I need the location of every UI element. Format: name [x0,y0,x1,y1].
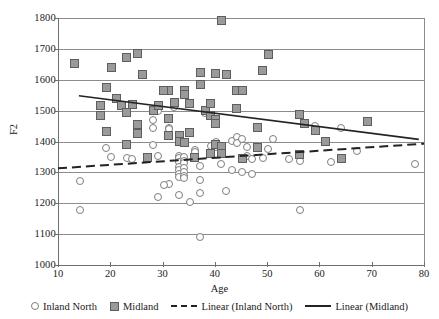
legend-item: Midland [110,301,159,312]
x-axis-tick-label: 30 [148,268,178,279]
data-point [138,70,147,79]
data-point [337,124,345,132]
data-point [206,99,215,108]
data-point [76,177,84,185]
data-point [128,100,137,109]
data-point [160,181,168,189]
y-axis-tick-label: 1600 [4,75,56,85]
x-axis-tick-label: 80 [409,268,439,279]
data-point [238,168,246,176]
data-point [180,138,189,147]
data-point [295,150,304,159]
data-point [76,206,84,214]
x-axis-tick-label: 40 [200,268,230,279]
data-point [149,116,157,124]
data-point [159,86,168,95]
data-point [243,143,251,151]
data-point [285,155,293,163]
data-point [311,126,320,135]
legend-item: Inland North [31,301,97,312]
x-axis-tick [267,262,268,267]
data-point [70,59,79,68]
x-axis-tick [319,262,320,267]
y-axis-tick-labels: 100011001200130014001500160017001800 [0,0,56,280]
data-point [228,166,236,174]
x-axis-tick-label: 10 [43,268,73,279]
data-point [337,154,346,163]
scatter-chart: 100011001200130014001500160017001800 102… [0,0,439,319]
x-axis-tick [215,262,216,267]
dashed-line-icon [171,305,197,307]
x-axis-tick [58,262,59,267]
data-point [185,128,194,137]
square-marker-icon [110,302,119,311]
data-point [295,110,304,119]
y-axis-tick [54,203,59,204]
y-axis-tick-label: 1100 [4,229,56,239]
gridline-y [58,18,424,19]
data-point [206,149,215,158]
data-point [296,206,304,214]
data-point [217,16,226,25]
data-point [185,99,194,108]
data-point [102,144,110,152]
data-point [264,145,272,153]
data-point [211,69,220,78]
data-point [180,90,189,99]
y-axis-tick-label: 1300 [4,167,56,177]
y-axis-tick [54,80,59,81]
chart-legend: Inland NorthMidlandLinear (Inland North)… [0,297,439,315]
data-point [122,108,131,117]
data-point [107,153,115,161]
data-point [238,135,246,143]
data-point [238,154,247,163]
data-point [327,158,335,166]
x-axis-tick-label: 50 [252,268,282,279]
data-point [222,187,230,195]
data-point [196,162,204,170]
data-point [238,86,247,95]
x-axis-tick [372,262,373,267]
circle-marker-icon [31,302,39,310]
y-axis-tick-label: 1400 [4,137,56,147]
y-axis-tick [54,142,59,143]
x-axis-tick-label: 60 [304,268,334,279]
legend-item: Linear (Midland) [305,301,408,312]
y-axis-tick [54,111,59,112]
solid-line-icon [305,305,331,307]
data-point [122,53,131,62]
y-axis-tick [54,18,59,19]
x-axis-tick [424,262,425,267]
data-point [175,191,183,199]
data-point [300,119,309,128]
gridline-y [58,234,424,235]
data-point [154,152,162,160]
data-point [196,68,205,77]
plot-area [58,18,424,265]
data-point [259,154,267,162]
data-point [133,49,142,58]
legend-item-label: Linear (Inland North) [201,301,292,312]
y-axis-tick-label: 1700 [4,44,56,54]
data-point [180,174,188,182]
data-point [196,189,204,197]
legend-item-label: Linear (Midland) [335,301,408,312]
data-point [133,120,142,129]
y-axis-tick [54,234,59,235]
x-axis-tick-label: 70 [357,268,387,279]
data-point [190,153,199,162]
data-point [102,83,111,92]
x-axis-title: Age [0,283,439,294]
y-axis-tick-label: 1500 [4,106,56,116]
data-point [211,119,220,128]
data-point [353,147,361,155]
data-point [186,198,194,206]
data-point [411,160,419,168]
x-axis-tick [110,262,111,267]
data-point [321,137,330,146]
legend-item: Linear (Inland North) [171,301,292,312]
data-point [122,140,131,149]
data-point [164,114,173,123]
x-axis-tick-label: 20 [95,268,125,279]
data-point [149,141,157,149]
